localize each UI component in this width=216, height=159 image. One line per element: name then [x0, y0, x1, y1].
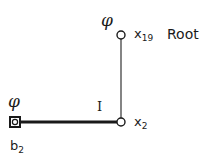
b2-leaf-subscript: 2 [18, 145, 24, 155]
edge-label-I: I [97, 100, 102, 113]
root-node-circle [117, 31, 125, 39]
root-node-subscript: 19 [142, 33, 153, 43]
tree-diagram: φ x19 Root I x2 φ b2 [0, 0, 216, 159]
b2-leaf-inner-circle [12, 119, 17, 124]
root-node-label: x19 [134, 27, 153, 40]
root-node-name: x [134, 26, 142, 41]
root-role-label: Root [167, 27, 199, 41]
leaf-phi-symbol: φ [8, 93, 20, 110]
x2-node-circle [117, 118, 125, 126]
x2-node-label: x2 [134, 115, 147, 128]
x2-node-name: x [134, 114, 142, 129]
x2-node-subscript: 2 [142, 121, 148, 131]
root-phi-symbol: φ [101, 12, 113, 29]
b2-leaf-label: b2 [10, 139, 24, 152]
